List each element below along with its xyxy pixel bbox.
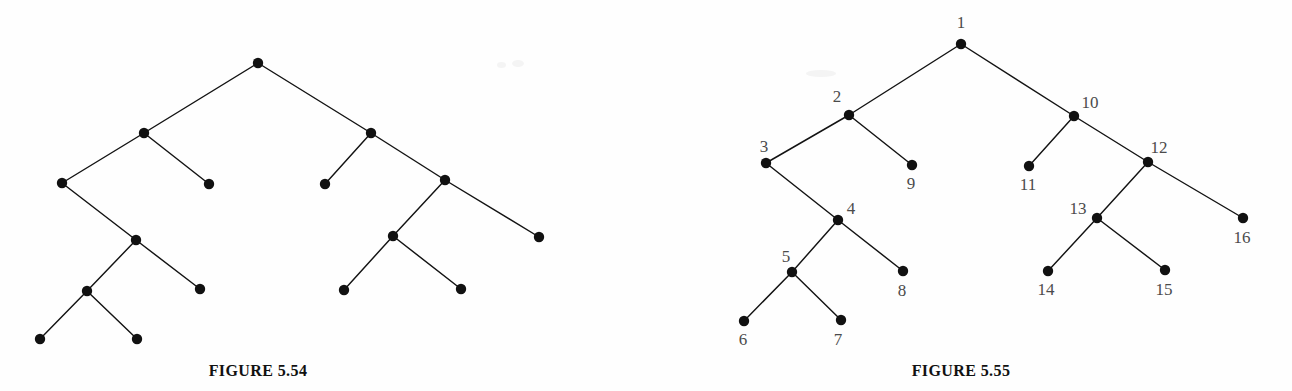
tree-edge xyxy=(87,291,137,339)
tree-node xyxy=(253,58,263,68)
tree-edge xyxy=(371,133,445,180)
tree-edge xyxy=(766,115,849,163)
tree-node xyxy=(139,128,149,138)
tree-node xyxy=(204,179,214,189)
tree-edge xyxy=(325,133,371,184)
tree-node xyxy=(366,128,376,138)
tree-node-label: 9 xyxy=(907,174,916,193)
tree-node xyxy=(320,179,330,189)
tree-node xyxy=(388,231,398,241)
tree-node-label: 8 xyxy=(898,281,907,300)
tree-node xyxy=(898,266,908,276)
tree-node xyxy=(1238,213,1248,223)
tree-edge xyxy=(144,63,258,133)
tree-node-label: 2 xyxy=(833,87,842,106)
tree-node xyxy=(1160,265,1170,275)
node-labels: 12345678910111213141516 xyxy=(739,13,1251,349)
tree-node xyxy=(787,267,797,277)
scan-artifact xyxy=(497,62,506,68)
tree-edge xyxy=(445,180,539,237)
tree-node xyxy=(456,284,466,294)
tree-edge xyxy=(1097,162,1148,218)
tree-edge xyxy=(62,183,136,240)
tree-edge xyxy=(393,236,461,289)
tree-edge xyxy=(344,236,393,290)
tree-node xyxy=(195,284,205,294)
tree-edge xyxy=(961,44,1074,116)
tree-edge xyxy=(792,220,838,272)
scan-artifact xyxy=(806,70,836,77)
tree-node xyxy=(1024,161,1034,171)
tree-edge xyxy=(838,220,903,271)
scan-artifacts xyxy=(497,60,836,77)
tree-node xyxy=(534,232,544,242)
tree-edge xyxy=(744,272,792,321)
tree-edge xyxy=(1148,162,1243,218)
scan-artifact xyxy=(512,60,524,67)
tree-node xyxy=(836,315,846,325)
tree-node xyxy=(956,39,966,49)
tree-node xyxy=(1043,266,1053,276)
tree-node xyxy=(761,158,771,168)
tree-node xyxy=(833,215,843,225)
tree-node xyxy=(1143,157,1153,167)
tree-edge xyxy=(1048,218,1097,271)
tree-edge xyxy=(144,133,209,184)
tree-edge xyxy=(1097,218,1165,270)
tree-edge xyxy=(136,240,200,289)
tree-node xyxy=(82,286,92,296)
tree-nodes xyxy=(35,39,1248,344)
tree-node xyxy=(844,110,854,120)
tree-node xyxy=(1069,111,1079,121)
tree-edge xyxy=(792,272,841,320)
tree-edge xyxy=(393,180,445,236)
tree-node-label: 10 xyxy=(1082,93,1099,112)
tree-edge xyxy=(87,240,136,291)
tree-edge xyxy=(849,115,912,165)
tree-node-label: 15 xyxy=(1156,280,1173,299)
figure-caption-5-54: FIGURE 5.54 xyxy=(183,362,333,380)
tree-node xyxy=(739,316,749,326)
tree-node xyxy=(440,175,450,185)
figure-caption-5-55: FIGURE 5.55 xyxy=(886,362,1036,380)
tree-edges xyxy=(40,44,1243,339)
tree-node-label: 13 xyxy=(1070,199,1087,218)
tree-edge xyxy=(258,63,371,133)
tree-node xyxy=(907,160,917,170)
tree-edge xyxy=(1074,116,1148,162)
tree-node xyxy=(57,178,67,188)
tree-edge xyxy=(849,44,961,115)
tree-edge xyxy=(766,163,838,220)
tree-edge xyxy=(62,133,144,183)
tree-node-label: 5 xyxy=(782,247,791,266)
tree-node xyxy=(132,334,142,344)
figure-page: 12345678910111213141516 FIGURE 5.54 FIGU… xyxy=(0,0,1292,391)
tree-node-label: 6 xyxy=(739,330,748,349)
tree-node-label: 14 xyxy=(1038,280,1056,299)
tree-node xyxy=(339,285,349,295)
tree-edge xyxy=(40,291,87,339)
tree-node-label: 11 xyxy=(1020,175,1036,194)
tree-node-label: 3 xyxy=(760,137,769,156)
tree-node-label: 16 xyxy=(1234,228,1251,247)
tree-node xyxy=(131,235,141,245)
tree-node-label: 1 xyxy=(957,13,966,32)
trees-diagram: 12345678910111213141516 xyxy=(0,0,1292,391)
tree-node-label: 12 xyxy=(1151,138,1168,157)
tree-node-label: 4 xyxy=(847,199,856,218)
tree-node-label: 7 xyxy=(834,330,843,349)
tree-node xyxy=(1092,213,1102,223)
tree-node xyxy=(35,334,45,344)
tree-edge xyxy=(1029,116,1074,166)
